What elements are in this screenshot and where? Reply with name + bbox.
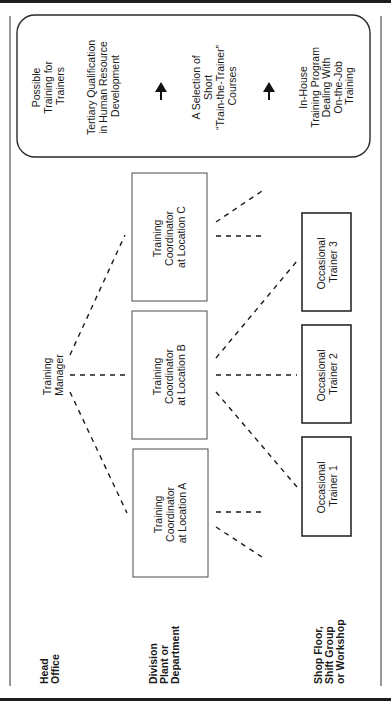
training-structure-diagram: Possible Training for Trainers Tertiary … (0, 0, 391, 715)
trainer-2-label: Occasional Trainer 2 (315, 347, 339, 402)
trainer-3-label: Occasional Trainer 3 (315, 235, 339, 290)
top-border-bar (0, 0, 391, 3)
connector-manager-to-a (70, 392, 127, 513)
bottom-border-bar (0, 698, 391, 701)
connector-a-diagonal (216, 527, 262, 557)
level-head-office: Head Office (38, 654, 61, 684)
training-manager-label: Training Manager (41, 354, 65, 396)
level-division: Division Plant or Department (147, 625, 181, 684)
connector-c-diagonal (216, 191, 262, 222)
connector-b-to-trainer3 (216, 261, 297, 358)
level-shop-floor: Shop Floor, Shift Group or Workshop (312, 619, 346, 684)
connector-b-to-trainer1 (216, 392, 297, 487)
connector-manager-to-c (70, 235, 125, 355)
trainer-1-label: Occasional Trainer 1 (315, 459, 339, 514)
